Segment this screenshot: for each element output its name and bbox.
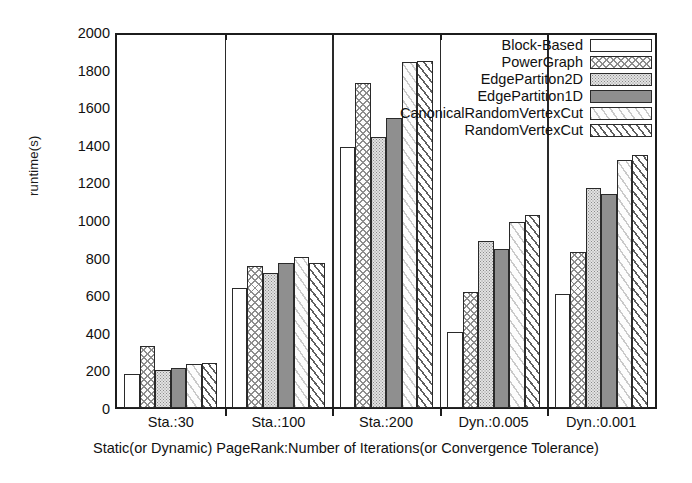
y-tick-label: 600 [64, 289, 110, 303]
legend-swatch [590, 73, 652, 86]
bar [386, 118, 402, 408]
bar [247, 266, 263, 408]
legend-swatch [590, 124, 652, 137]
bar [371, 137, 387, 408]
x-tick-mark [440, 409, 442, 416]
y-tick-label: 400 [64, 327, 110, 341]
bar [494, 249, 510, 408]
legend-item: EdgePartition1D [368, 88, 652, 105]
group-separator [332, 33, 334, 407]
legend: Block-BasedPowerGraphEdgePartiton2DEdgeP… [368, 36, 652, 139]
bar [186, 364, 202, 408]
legend-swatch [590, 39, 652, 52]
legend-item: Block-Based [368, 37, 652, 54]
x-tick-mark-top [332, 33, 334, 40]
legend-label: PowerGraph [502, 55, 583, 70]
legend-item: PowerGraph [368, 54, 652, 71]
bar [447, 332, 463, 408]
bar [340, 147, 356, 408]
bar [617, 160, 633, 408]
y-tick-label: 2000 [64, 26, 110, 40]
y-tick-label: 1600 [64, 101, 110, 115]
legend-item: RandomVertexCut [368, 122, 652, 139]
bar [202, 363, 218, 408]
y-tick-label: 1800 [64, 64, 110, 78]
legend-label: RandomVertexCut [465, 123, 583, 138]
x-tick-mark-top [225, 33, 227, 40]
bar [586, 188, 602, 408]
bar [509, 222, 525, 409]
bar [463, 292, 479, 408]
bar [525, 215, 541, 408]
legend-swatch [590, 90, 652, 103]
y-tick-label: 1400 [64, 139, 110, 153]
legend-label: Block-Based [502, 38, 583, 53]
bar [124, 374, 140, 409]
x-tick-mark [225, 409, 227, 416]
bar [140, 346, 156, 408]
x-tick-mark [332, 409, 334, 416]
bar [555, 294, 571, 408]
bar-chart: runtime(s) 20001800160014001200100080060… [0, 0, 692, 483]
bar [632, 155, 648, 408]
legend-item: CanonicalRandomVertexCut [368, 105, 652, 122]
y-tick-label: 1000 [64, 214, 110, 228]
x-group-label: Dyn.:0.001 [566, 414, 636, 430]
bar [601, 194, 617, 408]
x-group-label: Dyn.:0.005 [459, 414, 529, 430]
bar [263, 273, 279, 408]
bar [570, 252, 586, 408]
bar [478, 241, 494, 408]
bar [309, 263, 325, 408]
x-group-label: Sta.:100 [251, 414, 305, 430]
x-group-label: Sta.:200 [359, 414, 413, 430]
y-axis-tick-labels: 2000180016001400120010008006004002000 [58, 33, 110, 409]
legend-label: EdgePartiton2D [481, 72, 583, 87]
legend-swatch [590, 56, 652, 69]
x-group-label: Sta.:30 [148, 414, 194, 430]
bar [278, 263, 294, 408]
bar [232, 288, 248, 408]
group-separator [225, 33, 227, 407]
legend-item: EdgePartiton2D [368, 71, 652, 88]
y-axis-title: runtime(s) [26, 135, 41, 196]
bar [294, 257, 310, 408]
x-axis-title: Static(or Dynamic) PageRank:Number of It… [0, 440, 692, 456]
bar [155, 370, 171, 408]
y-tick-label: 200 [64, 364, 110, 378]
legend-label: EdgePartition1D [477, 89, 583, 104]
bar [171, 368, 187, 408]
y-tick-label: 1200 [64, 176, 110, 190]
legend-label: CanonicalRandomVertexCut [400, 106, 583, 121]
y-tick-label: 0 [64, 402, 110, 416]
y-tick-label: 800 [64, 252, 110, 266]
legend-swatch [590, 107, 652, 120]
x-tick-mark [547, 409, 549, 416]
